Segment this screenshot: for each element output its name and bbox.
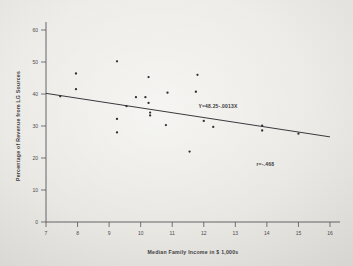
regression-equation-label: Y=48.25-.0013X [198, 103, 238, 109]
y-tick-label: 60 [32, 27, 38, 33]
y-tick-label: 50 [32, 59, 38, 65]
data-point [116, 60, 118, 62]
data-point [147, 76, 149, 78]
data-point [203, 120, 205, 122]
data-point [125, 105, 127, 107]
data-point [116, 131, 118, 133]
y-axis-ticks: 0102030405060 [32, 27, 46, 225]
data-point [59, 95, 61, 97]
data-point [116, 118, 118, 120]
correlation-coefficient-label: r=-.468 [256, 161, 274, 167]
data-point [212, 126, 214, 128]
data-point [75, 72, 77, 74]
x-tick-label: 9 [108, 230, 111, 236]
axes-group [46, 22, 340, 222]
data-point [188, 150, 190, 152]
y-axis-title: Percentage of Revenue from LG Sources [15, 71, 21, 181]
y-tick-label: 10 [32, 187, 38, 193]
data-point [144, 96, 146, 98]
x-tick-label: 14 [264, 230, 270, 236]
y-tick-label: 20 [32, 155, 38, 161]
data-point [261, 125, 263, 127]
data-point [166, 92, 168, 94]
data-point [297, 133, 299, 135]
data-point [261, 129, 263, 131]
x-tick-label: 11 [170, 230, 175, 236]
x-tick-label: 7 [45, 230, 48, 236]
x-tick-label: 8 [76, 230, 79, 236]
x-tick-label: 13 [233, 230, 239, 236]
data-point [165, 124, 167, 126]
x-tick-label: 15 [296, 230, 302, 236]
y-tick-label: 0 [35, 219, 38, 225]
x-axis-title: Median Family Income in $ 1,000s [147, 249, 238, 255]
regression-line [46, 93, 330, 137]
x-axis-ticks: 78910111213141516 [45, 222, 333, 236]
x-tick-label: 12 [201, 230, 207, 236]
data-point [147, 102, 149, 104]
figure-container: 0102030405060 78910111213141516 Y=48.25-… [0, 0, 353, 266]
data-points-group [59, 60, 300, 153]
scatter-plot: 0102030405060 78910111213141516 Y=48.25-… [0, 0, 353, 266]
x-tick-label: 16 [327, 230, 333, 236]
regression-fit-line [46, 93, 330, 137]
data-point [149, 114, 151, 116]
data-point [135, 96, 137, 98]
y-tick-label: 40 [32, 91, 38, 97]
data-point [149, 111, 151, 113]
data-point [75, 88, 77, 90]
data-point [196, 74, 198, 76]
data-point [195, 91, 197, 93]
x-tick-label: 10 [138, 230, 144, 236]
y-tick-label: 30 [32, 123, 38, 129]
